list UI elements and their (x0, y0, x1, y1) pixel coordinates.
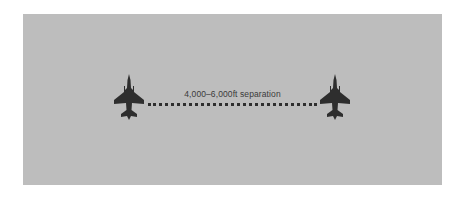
diagram-panel (23, 14, 442, 185)
separation-label: 4,000–6,000ft separation (148, 89, 317, 99)
separation-dotted-line (148, 103, 317, 106)
fighter-jet-icon (319, 74, 351, 120)
fighter-jet-icon (113, 74, 145, 120)
